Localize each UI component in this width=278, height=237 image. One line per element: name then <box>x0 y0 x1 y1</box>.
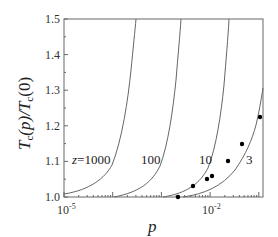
x-tick-label-1e-2: 10-2 <box>202 202 221 217</box>
curve-label-z1000: z=1000 <box>71 152 110 167</box>
y-tick-label: 1.3 <box>45 83 60 97</box>
plot-frame <box>64 19 263 197</box>
data-point <box>205 177 209 181</box>
y-axis-title: Tc(p)/Tc(0) <box>15 77 35 150</box>
data-point <box>210 174 214 178</box>
data-point <box>176 195 180 199</box>
data-point <box>226 159 230 163</box>
y-axis-ticks <box>64 19 68 197</box>
curve-label-z10: 10 <box>199 152 212 167</box>
y-tick-label: 1.4 <box>45 48 60 62</box>
x-tick-label-1e-5: 10-5 <box>57 202 76 217</box>
data-point <box>240 142 244 146</box>
curve-z3 <box>183 88 263 197</box>
chart: z=1000 100 10 3 1.0 1.1 1.2 1.3 1.4 1.5 … <box>0 0 278 237</box>
curve-z1000 <box>64 19 136 194</box>
y-tick-label: 1.2 <box>45 119 60 133</box>
y-tick-label: 1.0 <box>45 190 60 204</box>
y-tick-label: 1.5 <box>45 12 60 26</box>
x-axis-title: p <box>147 217 157 236</box>
data-point <box>258 115 262 119</box>
curve-z100 <box>114 19 181 197</box>
x-axis-ticks <box>64 192 259 197</box>
y-tick-label: 1.1 <box>45 154 60 168</box>
curve-label-z3: 3 <box>246 152 253 167</box>
curve-label-z100: 100 <box>141 152 161 167</box>
data-point <box>191 184 195 188</box>
y-tick-labels: 1.0 1.1 1.2 1.3 1.4 1.5 <box>45 12 60 204</box>
